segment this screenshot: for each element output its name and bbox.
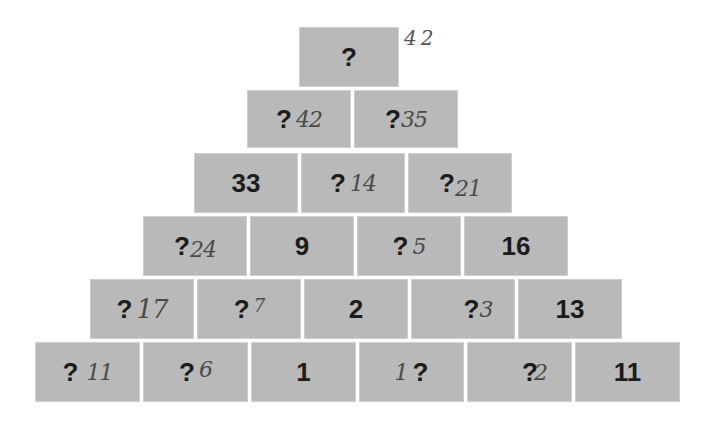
pyramid-cell-r6-c1[interactable]: ? 11 (35, 342, 140, 402)
number-pyramid: 42 ? ? 42 ? 35 33 ? 14 ? 21 ? (0, 0, 701, 427)
cell-printed-value: ? (464, 294, 480, 325)
cell-handwritten-answer: 42 (296, 107, 322, 132)
cell-handwritten-answer: 2 (534, 360, 547, 385)
pyramid-cell-r5-c3[interactable]: 2 (304, 279, 408, 339)
pyramid-cell-r2-c2[interactable]: ? 35 (354, 90, 458, 148)
cell-printed-value: 2 (349, 294, 363, 325)
pyramid-cell-r5-c1[interactable]: ? 17 (90, 279, 194, 339)
cell-printed-value: ? (117, 294, 133, 325)
pyramid-row-6: ? 11 ? 6 1 1 ? ? 2 11 (35, 342, 680, 402)
cell-handwritten-answer: 5 (412, 234, 425, 259)
pyramid-cell-r4-c4[interactable]: 16 (464, 216, 568, 276)
pyramid-row-4: ? 24 9 ? 5 16 (143, 216, 568, 276)
pyramid-cell-r4-c3[interactable]: ? 5 (357, 216, 461, 276)
pyramid-cell-r1-c1[interactable]: ? (299, 27, 399, 87)
cell-handwritten-answer: 6 (199, 357, 212, 382)
pyramid-cell-r4-c1[interactable]: ? 24 (143, 216, 247, 276)
pyramid-row-1: ? (299, 27, 399, 87)
cell-printed-value: 9 (295, 231, 309, 262)
cell-printed-value: ? (63, 357, 79, 388)
cell-handwritten-answer: 17 (136, 294, 167, 324)
cell-printed-value: ? (385, 104, 401, 135)
pyramid-cell-r3-c3[interactable]: ? 21 (408, 153, 512, 213)
pyramid-cell-r4-c2[interactable]: 9 (250, 216, 354, 276)
cell-handwritten-answer: 3 (479, 297, 492, 322)
cell-printed-value: ? (179, 357, 195, 388)
cell-printed-value: 1 (296, 357, 310, 388)
cell-handwritten-answer: 1 (395, 360, 409, 385)
pyramid-cell-r5-c5[interactable]: 13 (518, 279, 622, 339)
pyramid-cell-r5-c4[interactable]: ? 3 (411, 279, 515, 339)
pyramid-cell-r6-c4[interactable]: 1 ? (359, 342, 464, 402)
cell-printed-value: ? (234, 294, 250, 325)
cell-printed-value: ? (174, 231, 190, 262)
cell-handwritten-answer: 7 (254, 295, 264, 316)
pyramid-cell-r6-c2[interactable]: ? 6 (143, 342, 248, 402)
pyramid-row-5: ? 17 ? 7 2 ? 3 13 (90, 279, 622, 339)
handwritten-total-note: 42 (404, 26, 437, 50)
cell-printed-value: ? (393, 231, 409, 262)
cell-printed-value: 33 (232, 168, 261, 199)
pyramid-cell-r6-c5[interactable]: ? 2 (467, 342, 572, 402)
pyramid-cell-r3-c1[interactable]: 33 (194, 153, 298, 213)
pyramid-cell-r5-c2[interactable]: ? 7 (197, 279, 301, 339)
pyramid-cell-r6-c6[interactable]: 11 (575, 342, 680, 402)
cell-handwritten-answer: 24 (190, 237, 216, 262)
cell-printed-value: 16 (502, 231, 531, 262)
pyramid-cell-r6-c3[interactable]: 1 (251, 342, 356, 402)
pyramid-row-2: ? 42 ? 35 (247, 90, 458, 148)
cell-printed-value: ? (330, 168, 346, 199)
cell-printed-value: ? (413, 357, 429, 388)
cell-handwritten-answer: 35 (401, 107, 427, 132)
cell-handwritten-answer: 11 (86, 360, 112, 385)
cell-printed-value: 11 (614, 357, 642, 388)
cell-handwritten-answer: 14 (350, 171, 376, 196)
pyramid-row-3: 33 ? 14 ? 21 (194, 153, 512, 213)
pyramid-cell-r2-c1[interactable]: ? 42 (247, 90, 351, 148)
cell-printed-value: ? (341, 42, 357, 73)
pyramid-cell-r3-c2[interactable]: ? 14 (301, 153, 405, 213)
cell-printed-value: ? (439, 168, 455, 199)
cell-printed-value: ? (276, 104, 292, 135)
cell-printed-value: 13 (556, 294, 585, 325)
cell-handwritten-answer: 21 (455, 176, 481, 201)
